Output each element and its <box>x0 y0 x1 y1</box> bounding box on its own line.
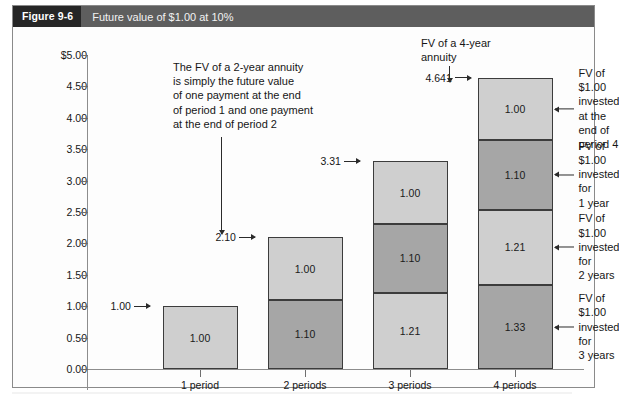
annotation-four-year-annuity: FV of a 4-year annuity <box>421 36 491 64</box>
bar-segment-label: 1.00 <box>190 332 210 344</box>
y-axis-tick-label: 2.00 <box>23 237 87 249</box>
bar-total-label: 1.00 <box>111 300 150 312</box>
y-axis-tick-mark <box>81 55 88 56</box>
annotation-two-year-annuity: The FV of a 2-year annuity is simply the… <box>173 60 313 131</box>
bar-segment-label: 1.00 <box>400 187 420 199</box>
x-axis-tick-label: 4 periods <box>493 379 536 391</box>
bar-segment: 1.10 <box>373 224 448 293</box>
y-axis-tick-label: 0.50 <box>23 332 87 344</box>
y-axis-tick-mark <box>81 338 88 339</box>
arrow-left-icon <box>555 327 574 328</box>
scan-artifact <box>12 392 572 394</box>
bar-segment: 1.10 <box>478 140 553 209</box>
x-axis-tick-label: 1 period <box>181 379 219 391</box>
bar-segment: 1.00 <box>478 78 553 141</box>
y-axis-tick-mark <box>81 181 88 182</box>
figure-title: Future value of $1.00 at 10% <box>81 11 233 23</box>
bar-column: 1.101.00 <box>268 237 343 369</box>
bar-segment-label: 1.00 <box>295 263 315 275</box>
arrow-right-icon <box>239 237 255 238</box>
x-axis-tick-mark <box>305 370 306 377</box>
y-axis-tick-mark <box>81 212 88 213</box>
segment-annotation-text: FV of $1.00 invested for 2 years <box>579 212 619 283</box>
y-axis-tick-label: 1.00 <box>23 300 87 312</box>
y-axis-tick-label: $5.00 <box>23 49 87 61</box>
chart-plot-area: $5.004.504.003.503.002.502.001.501.000.5… <box>13 27 594 387</box>
y-axis-ticks: $5.004.504.003.503.002.502.001.501.000.5… <box>13 27 87 387</box>
y-axis-line <box>87 55 88 390</box>
y-axis-tick-label: 4.50 <box>23 80 87 92</box>
y-axis-tick-mark <box>81 275 88 276</box>
bar-segment-label: 1.21 <box>505 241 525 253</box>
y-axis-tick-label: 0.00 <box>23 363 87 375</box>
arrow-right-icon <box>455 77 471 78</box>
x-axis-tick-label: 3 periods <box>388 379 431 391</box>
bar-segment: 1.10 <box>268 300 343 369</box>
x-axis-tick-mark <box>410 370 411 377</box>
bar-segment-label: 1.00 <box>505 103 525 115</box>
bar-total-value: 3.31 <box>321 155 341 167</box>
bar-segment-label: 1.33 <box>505 321 525 333</box>
x-axis-tick-mark <box>515 370 516 377</box>
y-axis-tick-mark <box>81 369 88 370</box>
segment-annotation: FV of $1.00 invested for 3 years <box>555 292 619 363</box>
bar-segment: 1.00 <box>373 161 448 224</box>
x-axis-tick-label: 2 periods <box>283 379 326 391</box>
y-axis-tick-label: 3.00 <box>23 175 87 187</box>
bar-total-label: 3.31 <box>321 155 360 167</box>
arrow-right-icon <box>344 161 360 162</box>
y-axis-tick-label: 4.00 <box>23 112 87 124</box>
y-axis-tick-label: 3.50 <box>23 143 87 155</box>
arrow-left-icon <box>555 108 574 109</box>
y-axis-tick-label: 1.50 <box>23 269 87 281</box>
bar-column: 1.331.211.101.00 <box>478 78 553 369</box>
bar-segment-label: 1.10 <box>505 169 525 181</box>
annotation-four-year-leader-line <box>449 66 450 82</box>
segment-annotation-text: FV of $1.00 invested for 3 years <box>579 292 619 363</box>
y-axis-tick-mark <box>81 118 88 119</box>
segment-annotation: FV of $1.00 invested for 2 years <box>555 212 619 283</box>
bar-column: 1.00 <box>163 306 238 369</box>
bar-segment: 1.00 <box>268 237 343 300</box>
y-axis-tick-mark <box>81 306 88 307</box>
bar-segment-label: 1.10 <box>400 252 420 264</box>
y-axis-tick-mark <box>81 149 88 150</box>
figure-caption-bar: Figure 9-6 Future value of $1.00 at 10% <box>13 6 594 27</box>
arrow-left-icon <box>555 247 574 248</box>
arrow-left-icon <box>555 174 574 175</box>
bar-total-value: 1.00 <box>111 300 131 312</box>
bar-segment: 1.00 <box>163 306 238 369</box>
y-axis-tick-mark <box>81 243 88 244</box>
arrow-right-icon <box>134 306 150 307</box>
annotation-two-year-leader-line <box>221 137 222 234</box>
y-axis-tick-mark <box>81 86 88 87</box>
bar-column: 1.211.101.00 <box>373 161 448 369</box>
segment-annotation-text: FV of $1.00 invested for 1 year <box>579 139 619 210</box>
x-axis-line <box>87 369 584 370</box>
bar-segment-label: 1.10 <box>295 328 315 340</box>
bar-segment-label: 1.21 <box>400 325 420 337</box>
bar-segment: 1.21 <box>373 293 448 369</box>
bar-segment: 1.33 <box>478 285 553 369</box>
y-axis-tick-label: 2.50 <box>23 206 87 218</box>
segment-annotation: FV of $1.00 invested for 1 year <box>555 139 619 210</box>
figure-number-tag: Figure 9-6 <box>13 6 81 27</box>
bar-segment: 1.21 <box>478 210 553 286</box>
x-axis-tick-mark <box>200 370 201 377</box>
